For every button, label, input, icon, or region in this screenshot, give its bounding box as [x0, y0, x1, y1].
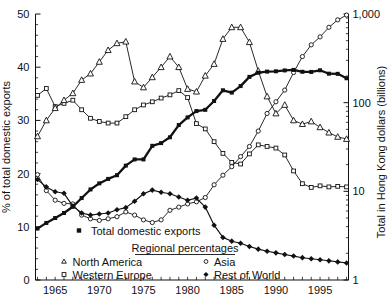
marker-western-europe	[89, 116, 93, 120]
marker-asia	[177, 205, 181, 209]
marker-western-europe	[71, 98, 75, 102]
marker-north-america	[291, 117, 297, 123]
marker-asia	[318, 35, 322, 39]
marker-western-europe	[133, 108, 137, 112]
series-line-north-america	[38, 27, 347, 139]
legend-marker-asia	[204, 260, 208, 264]
left-axis-title: % of total domestic exports	[0, 80, 12, 213]
marker-total-domestic-exports	[256, 71, 260, 75]
marker-total-domestic-exports	[36, 227, 40, 231]
marker-western-europe	[36, 93, 40, 97]
marker-total-domestic-exports	[88, 187, 92, 191]
marker-total-domestic-exports	[203, 108, 207, 112]
right-tick-label: 10	[353, 185, 365, 197]
x-tick-label: 1975	[131, 284, 155, 296]
marker-western-europe	[97, 120, 101, 124]
marker-north-america	[317, 124, 323, 130]
legend-label-north-america: North America	[73, 256, 144, 268]
marker-asia	[309, 43, 313, 47]
marker-total-domestic-exports	[71, 205, 75, 209]
marker-total-domestic-exports	[221, 88, 225, 92]
marker-total-domestic-exports	[62, 211, 66, 215]
marker-asia	[344, 13, 348, 17]
marker-western-europe	[124, 115, 128, 119]
marker-total-domestic-exports	[345, 76, 349, 80]
right-tick-label: 1	[353, 274, 359, 286]
marker-western-europe	[283, 153, 287, 157]
marker-asia	[106, 217, 110, 221]
legend-label-asia: Asia	[214, 256, 236, 268]
legend-label-western-europe: Western Europe	[73, 269, 152, 281]
marker-asia	[212, 183, 216, 187]
marker-asia	[53, 198, 57, 202]
marker-rest-of-world	[238, 240, 244, 246]
marker-western-europe	[142, 103, 146, 107]
marker-total-domestic-exports	[106, 177, 110, 181]
legend: Total domestic exportsRegional percentag…	[62, 225, 281, 281]
marker-western-europe	[256, 143, 260, 147]
plot-area: 010203040501101001,000196519701975198019…	[17, 8, 380, 296]
marker-total-domestic-exports	[53, 216, 57, 220]
right-axis-title: Total in Hong Kong dollars (billions)	[375, 66, 387, 238]
marker-total-domestic-exports	[336, 72, 340, 76]
series-western-europe	[36, 87, 349, 190]
marker-asia	[274, 100, 278, 104]
marker-asia	[256, 129, 260, 133]
x-tick-label: 1965	[43, 284, 67, 296]
marker-western-europe	[248, 152, 252, 156]
marker-total-domestic-exports	[283, 68, 287, 72]
marker-north-america	[123, 38, 129, 44]
marker-rest-of-world	[149, 187, 155, 193]
marker-total-domestic-exports	[177, 123, 181, 127]
marker-rest-of-world	[167, 191, 173, 197]
marker-total-domestic-exports	[265, 70, 269, 74]
marker-asia	[247, 144, 251, 148]
marker-north-america	[264, 93, 270, 99]
marker-western-europe	[265, 145, 269, 149]
marker-western-europe	[309, 186, 313, 190]
legend-label-rest-of-world: Rest of World	[214, 269, 280, 281]
marker-north-america	[185, 86, 191, 92]
marker-north-america	[246, 39, 252, 45]
marker-asia	[327, 25, 331, 29]
marker-north-america	[132, 78, 138, 84]
marker-rest-of-world	[317, 257, 323, 263]
marker-asia	[221, 173, 225, 177]
marker-western-europe	[115, 121, 119, 125]
marker-north-america	[335, 134, 341, 140]
marker-rest-of-world	[291, 253, 297, 259]
marker-rest-of-world	[335, 259, 341, 265]
series-total-domestic-exports	[36, 68, 349, 231]
marker-rest-of-world	[273, 250, 279, 256]
marker-rest-of-world	[176, 194, 182, 200]
marker-western-europe	[159, 96, 163, 100]
marker-rest-of-world	[282, 252, 288, 258]
marker-total-domestic-exports	[97, 181, 101, 185]
legend-marker-north-america	[62, 259, 67, 263]
marker-western-europe	[212, 140, 216, 144]
marker-asia	[265, 111, 269, 115]
marker-western-europe	[301, 182, 305, 186]
marker-western-europe	[292, 169, 296, 173]
marker-total-domestic-exports	[124, 164, 128, 168]
marker-total-domestic-exports	[194, 109, 198, 113]
series-line-total-domestic-exports	[38, 70, 347, 229]
marker-asia	[300, 54, 304, 58]
marker-north-america	[282, 102, 288, 108]
marker-asia	[230, 165, 234, 169]
x-tick-label: 1995	[308, 284, 332, 296]
series-line-western-europe	[38, 89, 347, 188]
marker-asia	[283, 88, 287, 92]
right-tick-label: 1,000	[353, 8, 381, 20]
marker-rest-of-world	[105, 210, 111, 216]
marker-rest-of-world	[88, 212, 94, 218]
marker-western-europe	[327, 185, 331, 189]
marker-asia	[141, 218, 145, 222]
left-tick-label: 20	[17, 168, 29, 180]
chart-figure: 010203040501101001,000196519701975198019…	[0, 0, 392, 308]
legend-group-title: Regional percentages	[131, 242, 239, 254]
marker-asia	[35, 173, 39, 177]
legend-marker-total	[77, 228, 81, 232]
marker-total-domestic-exports	[186, 115, 190, 119]
marker-rest-of-world	[247, 244, 253, 250]
